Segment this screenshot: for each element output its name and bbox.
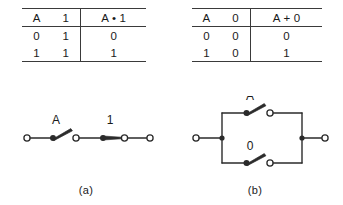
header-cell-input-a: A bbox=[22, 9, 51, 27]
header-cell-input-a: A bbox=[192, 9, 221, 27]
terminal-right-b bbox=[322, 135, 328, 141]
header-cell-output: A • 1 bbox=[81, 9, 146, 27]
cell-input-zero: 0 bbox=[221, 27, 251, 45]
switch-a-lever-open bbox=[53, 129, 73, 141]
switch-zero-terminal bbox=[267, 160, 273, 166]
circuit-b-parallel bbox=[193, 104, 328, 167]
terminal-left-a bbox=[24, 135, 30, 141]
switch-a-top-lever-open bbox=[246, 104, 266, 116]
terminal-right-a bbox=[147, 135, 153, 141]
figure-root: A 1 A • 1 0 1 0 1 1 1 A 0 A + 0 0 0 0 1 … bbox=[0, 0, 343, 205]
cell-input-zero: 0 bbox=[221, 44, 251, 62]
terminal-left-b bbox=[193, 135, 199, 141]
switch-label-zero-parallel: 0 bbox=[247, 139, 254, 153]
truth-table-a: A 1 A • 1 0 1 0 1 1 1 bbox=[22, 8, 146, 62]
switch-label-one-series: 1 bbox=[107, 113, 114, 127]
cell-input-a: 0 bbox=[22, 27, 51, 45]
truth-table-b: A 0 A + 0 0 0 0 1 0 1 bbox=[192, 8, 322, 62]
table-row: 1 0 1 bbox=[192, 44, 322, 62]
circuit-a-series bbox=[24, 129, 153, 142]
switch-a-terminal bbox=[73, 135, 79, 141]
cell-input-a: 1 bbox=[192, 44, 221, 62]
caption-b: (b) bbox=[235, 184, 275, 196]
cell-output: 0 bbox=[81, 27, 146, 45]
cell-output: 1 bbox=[81, 44, 146, 62]
table-header-row: A 1 A • 1 bbox=[22, 9, 146, 27]
header-cell-input-zero: 0 bbox=[221, 9, 251, 27]
switch-one-terminal bbox=[121, 135, 127, 141]
header-cell-output: A + 0 bbox=[251, 9, 322, 27]
switch-label-a-parallel: A bbox=[246, 96, 254, 103]
switch-a-top-terminal bbox=[267, 110, 273, 116]
cell-input-a: 1 bbox=[22, 44, 51, 62]
cell-input-one: 1 bbox=[51, 44, 81, 62]
table-header-row: A 0 A + 0 bbox=[192, 9, 322, 27]
cell-input-a: 0 bbox=[192, 27, 221, 45]
switch-one-lever-closed bbox=[103, 136, 122, 140]
table-row: 0 1 0 bbox=[22, 27, 146, 45]
cell-output: 1 bbox=[251, 44, 322, 62]
cell-output: 0 bbox=[251, 27, 322, 45]
cell-input-one: 1 bbox=[51, 27, 81, 45]
table-row: 1 1 1 bbox=[22, 44, 146, 62]
switch-zero-lever-open bbox=[246, 154, 266, 166]
switch-label-a-series: A bbox=[52, 113, 60, 127]
table-row: 0 0 0 bbox=[192, 27, 322, 45]
header-cell-input-one: 1 bbox=[51, 9, 81, 27]
caption-a: (a) bbox=[66, 184, 106, 196]
circuit-diagrams: A 1 A 0 bbox=[0, 96, 343, 176]
